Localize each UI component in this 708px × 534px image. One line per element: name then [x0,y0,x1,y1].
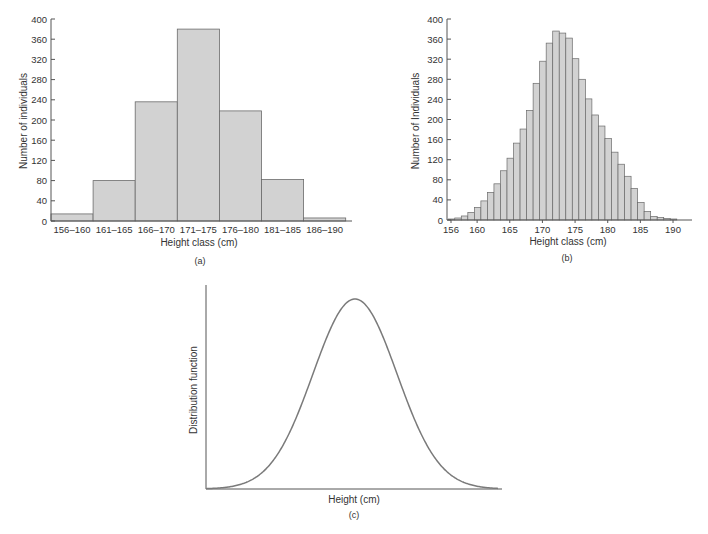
panel-c-distribution-curve: Distribution function Height (cm) (c) [188,285,502,520]
panel-b-y-tick-label: 240 [427,94,443,105]
panel-a-bar [177,29,219,221]
panel-b-y-tick-label: 200 [427,114,443,125]
panel-b-bar [559,33,566,220]
panel-a-y-tick-label: 200 [31,115,47,126]
panel-a-y-tick-label: 80 [36,175,47,186]
panel-b-x-tick-label: 165 [502,224,518,235]
panel-b-y-tick-label: 80 [432,174,443,185]
panel-c-bell-curve [206,299,498,489]
panel-b-bar [540,61,547,220]
panel-b-y-tick-label: 120 [427,154,443,165]
panel-a-bar [219,111,261,221]
panel-a-y-tick-label: 320 [31,54,47,65]
panel-a-x-tick-label: 171–175 [180,224,217,235]
panel-b-y-tick-label: 40 [432,194,443,205]
panel-c-y-axis-label: Distribution function [188,346,199,434]
panel-c-x-axis-label: Height (cm) [328,494,380,505]
panel-b-bar [651,216,658,220]
panel-b-bar [598,126,605,220]
panel-b-bar [461,216,468,220]
panel-b-bar [644,211,651,220]
panel-b-bar [533,83,540,220]
panel-b-y-tick-label: 320 [427,54,443,65]
panel-b-bar [487,192,494,220]
panel-b-bar [592,115,599,220]
panel-a-bar [262,180,304,221]
panel-a-y-tick-label: 40 [36,195,47,206]
panel-a-bar [51,214,93,221]
panel-b-bar [514,143,521,220]
panel-b-histogram: 04080120160200240280320360400 1561601651… [410,14,692,264]
panel-a-x-tick-labels: 156–160161–165166–170171–175176–180181–1… [54,224,344,235]
panel-b-bar [631,188,638,220]
panel-a-bar [135,102,177,221]
panel-b-x-tick-labels: 156160165170175180185190 [443,220,681,235]
panel-b-x-tick-label: 185 [632,224,648,235]
panel-a-x-tick-label: 181–185 [264,224,301,235]
panel-a-y-tick-label: 400 [31,14,47,25]
panel-b-bar [481,201,488,220]
figure: 04080120160200240280320360400 156–160161… [0,0,708,534]
panel-a-y-tick-label: 360 [31,34,47,45]
panel-a-x-tick-label: 161–165 [96,224,133,235]
panel-b-bar [605,139,612,220]
panel-b-bar [579,79,586,220]
panel-b-caption: (b) [562,253,573,263]
panel-a-x-tick-label: 186–190 [306,224,343,235]
panel-b-bar [494,184,501,220]
panel-b-x-tick-label: 170 [534,224,550,235]
panel-c-caption: (c) [349,510,360,520]
panel-a-y-tick-label: 0 [42,216,47,227]
panel-b-y-axis-label: Number of Individuals [410,73,421,170]
panel-a-x-tick-label: 156–160 [54,224,91,235]
panel-a-y-tick-label: 160 [31,135,47,146]
panel-b-x-tick-label: 156 [443,224,459,235]
panel-b-y-tick-label: 280 [427,74,443,85]
panel-b-bar [638,202,645,220]
panel-b-bar [572,59,579,220]
panel-b-y-tick-label: 160 [427,134,443,145]
panel-a-x-tick-label: 176–180 [222,224,259,235]
panel-b-bar [520,129,527,220]
panel-b-bar [546,43,553,220]
panel-a-y-tick-label: 240 [31,94,47,105]
panel-b-bar [618,164,625,220]
panel-a-bar [93,181,135,221]
panel-b-y-tick-label: 400 [427,14,443,25]
panel-a-y-axis-label: Number of individuals [18,73,29,169]
panel-b-x-tick-label: 180 [600,224,616,235]
panel-b-bars [448,31,677,220]
panel-b-bar [468,212,475,220]
panel-a-x-tick-label: 166–170 [138,224,175,235]
panel-b-bar [474,207,481,220]
panel-b-bar [585,99,592,220]
panel-b-bar [611,152,618,220]
panel-b-bar [566,38,573,220]
panel-b-y-tick-label: 360 [427,34,443,45]
panel-a-y-tick-label: 120 [31,155,47,166]
panel-a-x-axis-label: Height class (cm) [160,237,237,248]
panel-b-x-axis-label: Height class (cm) [529,236,606,247]
panel-a-bars [51,29,346,221]
panel-a-caption: (a) [195,256,206,266]
panel-a-histogram: 04080120160200240280320360400 156–160161… [18,14,352,267]
panel-b-bar [553,31,560,220]
panel-b-x-tick-label: 160 [469,224,485,235]
panel-b-bar [625,176,632,220]
panel-b-bar [527,110,534,220]
panel-b-x-tick-label: 175 [567,224,583,235]
panel-a-y-tick-label: 280 [31,74,47,85]
panel-b-bar [500,171,507,220]
panel-b-x-tick-label: 190 [665,224,681,235]
panel-b-bar [507,158,514,220]
